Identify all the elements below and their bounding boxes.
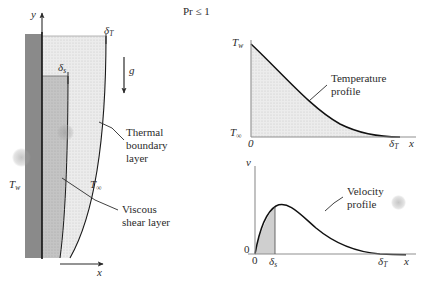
- velocity-callout-leader: [325, 197, 343, 211]
- vel-chart-y-axis-label: v: [246, 156, 251, 169]
- prandtl-condition-label: Pr ≤ 1: [183, 5, 210, 18]
- gravity-label: g: [129, 64, 135, 77]
- temperature-callout-leader: [309, 85, 327, 101]
- main-diagram-svg: [0, 0, 425, 287]
- vel-chart-x-axis-label: x: [404, 255, 409, 268]
- temp-chart-delta-thermal-label: δT: [389, 137, 398, 151]
- velocity-profile-title: Velocity profile: [347, 185, 384, 211]
- x-axis-label: x: [97, 266, 102, 279]
- vel-chart-yzero-label: 0: [244, 243, 250, 256]
- vel-chart-delta-shear-label: δs: [269, 255, 277, 269]
- temp-chart-x-axis-label: x: [409, 137, 414, 150]
- delta-shear-label: δs: [58, 61, 66, 75]
- velocity-chart-svg: [248, 166, 416, 255]
- velocity-curve: [255, 205, 406, 255]
- vel-chart-delta-thermal-label: δT: [378, 255, 387, 269]
- temp-chart-origin-label: 0: [248, 137, 254, 150]
- freestream-temperature-label: T∞: [90, 178, 101, 192]
- temp-chart-tinf-label: T∞: [230, 126, 241, 140]
- y-axis-label: y: [31, 8, 36, 21]
- wall-temperature-label: Tw: [9, 178, 20, 192]
- wall-slab: [25, 34, 42, 258]
- viscous-shear-layer-callout: Viscous shear layer: [122, 203, 170, 229]
- figure-root: Pr ≤ 1 y x g δT δs Tw T∞ Thermal boundar…: [0, 0, 425, 287]
- delta-thermal-label: δT: [104, 24, 113, 38]
- vel-chart-origin-label: 0: [252, 254, 258, 267]
- velocity-shaded-region: [255, 207, 275, 254]
- thermal-boundary-layer-callout: Thermal boundary layer: [126, 126, 168, 164]
- temp-chart-tw-label: Tw: [232, 36, 243, 50]
- temperature-profile-title: Temperature profile: [331, 72, 386, 98]
